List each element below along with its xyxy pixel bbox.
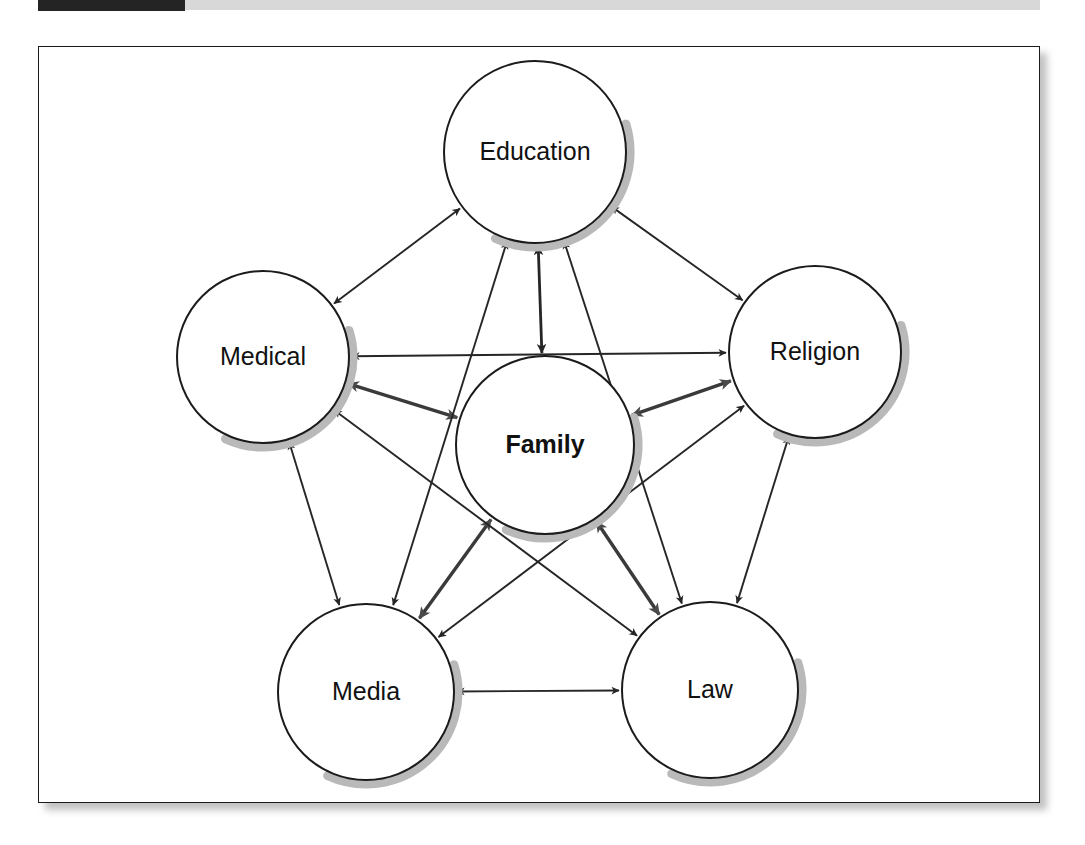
caption-band	[38, 0, 1040, 10]
figure-frame	[38, 46, 1040, 803]
figure-caption-header	[0, 0, 1085, 12]
figure-number-tag	[38, 0, 185, 11]
